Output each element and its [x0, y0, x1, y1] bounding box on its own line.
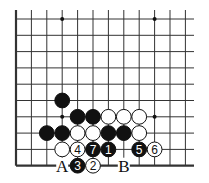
white-stone: [86, 126, 101, 141]
svg-text:A: A: [56, 157, 69, 176]
black-stone-1: 1: [101, 142, 116, 157]
star-point: [60, 115, 64, 119]
white-stone: [101, 109, 116, 124]
black-stone: [55, 126, 70, 141]
go-board-diagram: 4715632 AB: [0, 0, 209, 183]
white-stone-4: 4: [70, 142, 85, 157]
move-number: 5: [136, 143, 143, 157]
move-number: 2: [90, 159, 97, 173]
white-stone-6: 6: [147, 142, 162, 157]
black-stone: [86, 109, 101, 124]
white-stone: [132, 109, 147, 124]
star-point: [153, 115, 157, 119]
marker-A: A: [56, 157, 69, 176]
white-stone: [55, 142, 70, 157]
move-number: 6: [151, 143, 158, 157]
white-stone: [132, 126, 147, 141]
star-point: [153, 17, 157, 21]
marker-B: B: [118, 157, 130, 176]
svg-text:B: B: [118, 157, 129, 176]
black-stone: [101, 126, 116, 141]
move-number: 7: [90, 143, 97, 157]
black-stone: [70, 109, 85, 124]
move-number: 3: [74, 159, 81, 173]
star-point: [60, 17, 64, 21]
black-stone: [39, 126, 54, 141]
white-stone-2: 2: [86, 158, 101, 173]
move-number: 4: [74, 143, 81, 157]
black-stone-7: 7: [86, 142, 101, 157]
black-stone-3: 3: [70, 158, 85, 173]
move-number: 1: [105, 143, 112, 157]
black-stone: [116, 126, 131, 141]
black-stone-5: 5: [132, 142, 147, 157]
white-stone: [70, 126, 85, 141]
white-stone: [116, 109, 131, 124]
black-stone: [55, 93, 70, 108]
